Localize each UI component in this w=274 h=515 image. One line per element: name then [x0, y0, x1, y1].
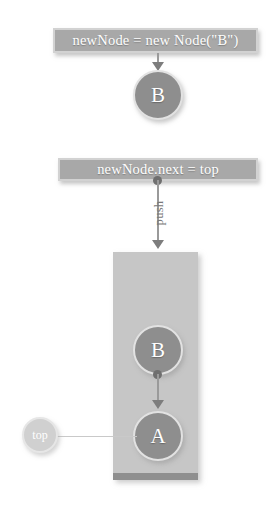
stack-base-bar: [113, 473, 198, 480]
node-b-standalone: B: [133, 70, 183, 120]
node-top-pointer: top: [22, 417, 58, 453]
edge-push: [157, 180, 159, 244]
arrowhead-icon-push: [152, 240, 164, 249]
arrowhead-icon-node-b-to-node-a: [152, 400, 164, 409]
diagram-canvas: newNode = new Node("B") B newNode.next =…: [0, 0, 274, 515]
node-a-in-stack: A: [133, 411, 183, 461]
node-b-in-stack: B: [133, 325, 183, 375]
edge-label-push: push: [136, 190, 182, 236]
edge-top-pointer-to-node-a: [57, 436, 137, 437]
label-new-node-assignment: newNode = new Node("B"): [53, 28, 258, 53]
